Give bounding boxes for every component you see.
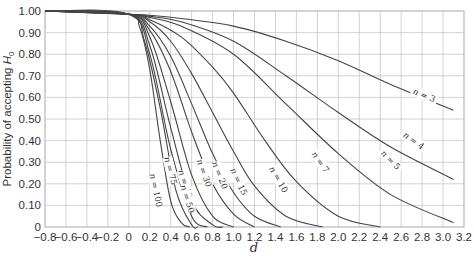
y-tick-label: 1.00 xyxy=(19,5,41,17)
x-axis-title: d xyxy=(250,240,258,255)
grid-lines xyxy=(45,11,464,227)
x-tick-label: −0.2 xyxy=(96,231,119,243)
y-tick-label: 0.50 xyxy=(19,113,41,125)
curve-n3 xyxy=(45,11,454,110)
x-tick-label: 1.8 xyxy=(309,231,325,243)
curve-label: n = 10 xyxy=(267,164,290,194)
y-tick-label: 0.90 xyxy=(19,27,41,39)
x-tick-label: 0.2 xyxy=(142,231,158,243)
y-axis-title-text: Probability of accepting xyxy=(1,64,13,186)
y-tick-label: 0.60 xyxy=(19,91,41,103)
y-tick-label: 0.10 xyxy=(19,199,41,211)
x-tick-label: 2.0 xyxy=(330,231,346,243)
y-tick-label: 0.80 xyxy=(19,48,41,60)
x-tick-label: 0 xyxy=(126,231,132,243)
x-tick-label: 0.8 xyxy=(205,231,221,243)
y-tick-label: 0.40 xyxy=(19,135,41,147)
y-tick-label: 0 xyxy=(35,221,41,233)
y-axis-title-subscript: 0 xyxy=(7,51,16,56)
x-tick-label: −0.4 xyxy=(76,231,99,243)
x-tick-label: 0.4 xyxy=(163,231,180,243)
curve-label: n = 50 xyxy=(178,184,196,215)
x-tick-label: −0.6 xyxy=(55,231,78,243)
curve-n75 xyxy=(45,11,198,228)
y-tick-label: 0.30 xyxy=(19,156,41,168)
x-tick-label: 2.2 xyxy=(351,231,367,243)
x-tick-label: 2.8 xyxy=(414,231,430,243)
y-tick-label: 0.70 xyxy=(19,70,41,82)
x-tick-label: 2.4 xyxy=(372,231,389,243)
oc-curve-chart: n = 3n = 4n = 5n = 7n = 10n = 15n = 20n … xyxy=(0,0,474,258)
y-axis-ticks: 00.100.200.300.400.500.600.700.800.901.0… xyxy=(19,5,41,233)
x-tick-label: 3.2 xyxy=(456,231,472,243)
x-tick-label: 1.0 xyxy=(226,231,242,243)
y-axis-title: Probability of accepting H0 xyxy=(1,51,16,186)
x-tick-label: 3.0 xyxy=(435,231,451,243)
curve-label: n = 15 xyxy=(228,166,249,196)
y-tick-label: 0.20 xyxy=(19,178,41,190)
x-tick-label: 2.6 xyxy=(393,231,409,243)
x-tick-label: 0.6 xyxy=(184,231,200,243)
x-tick-label: 1.4 xyxy=(267,231,284,243)
curve-label: n = 3 xyxy=(411,86,436,104)
x-tick-label: 1.6 xyxy=(288,231,304,243)
